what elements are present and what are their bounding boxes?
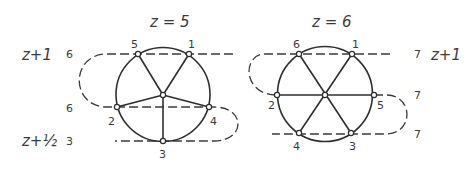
node-2 [274,92,279,97]
node-1 [349,51,354,56]
count-label: 7 [414,48,421,61]
bond-line [163,54,189,95]
count-label: 6 [66,102,73,115]
level-label: z+1 [21,46,52,64]
diagram-title-z6: z = 6 [311,13,352,31]
node-4 [206,104,211,109]
node-3 [348,130,353,135]
point-label: 1 [352,38,359,51]
diagram-title-z5: z = 5 [149,13,190,31]
point-label: 2 [268,99,275,112]
point-label: 2 [108,115,115,128]
point-label: 6 [293,38,300,51]
diagram-z6: z = 6 1 2 3 4 5 6 z+1 7 7 7 [249,13,461,153]
point-label: 4 [293,140,300,153]
point-label: 3 [349,140,356,153]
node-1 [186,51,191,56]
node-4 [296,130,301,135]
level-label: z+1 [430,46,461,64]
point-label: 5 [131,38,138,51]
diagram-z5: z = 5 1 2 3 4 5 z+1 z+½ 6 6 3 [21,13,238,161]
center-node [160,92,165,97]
node-5 [135,51,140,56]
bond-line [138,54,163,95]
center-node [322,92,327,97]
level-label: z+½ [21,132,57,150]
count-label: 7 [414,128,421,141]
node-2 [114,104,119,109]
count-label: 7 [414,89,421,102]
node-3 [160,138,165,143]
point-label: 3 [159,148,166,161]
point-label: 4 [210,115,217,128]
bond-line [117,95,163,107]
node-5 [371,92,376,97]
count-label: 6 [66,48,73,61]
node-6 [296,51,301,56]
coordination-diagram: z = 5 1 2 3 4 5 z+1 z+½ 6 6 3 z = 6 [0,0,475,171]
point-label: 1 [188,38,195,51]
point-label: 5 [377,99,384,112]
bond-line [163,95,209,107]
count-label: 3 [66,135,73,148]
